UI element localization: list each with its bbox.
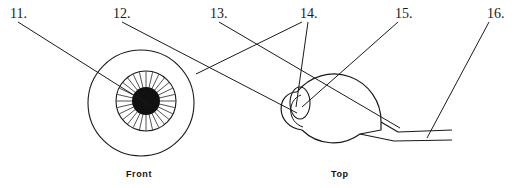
eye-anatomy-figure: 11. 12. 13. 14. 15. 16. Front Top xyxy=(0,0,518,188)
front-iris-fiber xyxy=(154,78,165,91)
front-iris-fiber xyxy=(151,74,158,89)
front-iris-fiber xyxy=(149,113,153,130)
front-iris-fiber xyxy=(133,112,140,127)
leader-14b xyxy=(296,22,308,107)
front-iris-fiber xyxy=(123,109,136,120)
leader-13 xyxy=(219,22,400,128)
callout-number-15: 15. xyxy=(395,7,413,21)
callout-number-16: 16. xyxy=(487,7,505,21)
front-iris-fiber xyxy=(123,83,136,94)
leader-15 xyxy=(302,22,398,107)
callout-number-11: 11. xyxy=(10,7,27,21)
leader-11 xyxy=(18,22,151,106)
front-iris-fiber xyxy=(154,111,165,124)
eye-diagram-canvas xyxy=(0,0,518,188)
front-iris-fiber xyxy=(149,72,153,89)
front-iris-fiber xyxy=(151,112,158,127)
leader-14a xyxy=(196,22,302,74)
front-iris-fiber xyxy=(158,104,175,108)
view-caption-front: Front xyxy=(126,170,152,179)
callout-number-13: 13. xyxy=(210,7,228,21)
front-iris-fiber xyxy=(157,106,172,113)
front-iris-fiber xyxy=(157,88,172,95)
front-pupil xyxy=(132,87,160,115)
leader-16 xyxy=(427,22,489,138)
front-iris-fiber xyxy=(117,94,134,98)
callout-number-14: 14. xyxy=(300,7,318,21)
front-iris-fiber xyxy=(156,83,169,94)
callout-number-12: 12. xyxy=(113,7,131,21)
front-iris-fiber xyxy=(119,106,134,113)
front-iris-fiber xyxy=(139,113,143,130)
front-iris-fiber xyxy=(133,74,140,89)
top-optic-nerve-lower xyxy=(360,134,452,141)
front-view-group xyxy=(88,50,194,156)
front-iris-fiber xyxy=(158,94,175,98)
front-iris-fiber xyxy=(117,104,134,108)
front-iris-fiber xyxy=(156,109,169,120)
front-iris-fiber xyxy=(128,111,139,124)
leader-lines-group xyxy=(18,22,489,138)
front-iris-fiber xyxy=(128,78,139,91)
view-caption-top: Top xyxy=(331,170,349,179)
front-iris-fiber xyxy=(139,72,143,89)
